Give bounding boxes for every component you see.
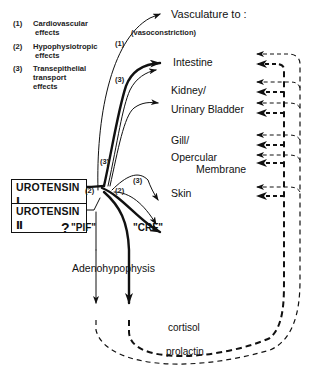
cortisol-label: cortisol (168, 322, 200, 334)
legend-text-line2: effects (35, 51, 59, 60)
target-gill: Gill/ (171, 134, 189, 146)
intestine-arrow-thick (104, 63, 160, 186)
target-intestine: Intestine (173, 56, 213, 68)
legend-number: (3) (13, 64, 22, 73)
target-skin: Skin (171, 187, 191, 199)
feedback-arrows-bladder (257, 103, 300, 113)
pif-question-mark: ? (61, 220, 70, 236)
feedback-arrows-kidney (257, 82, 300, 92)
legend-text-line1: Cardiovascular (33, 19, 88, 28)
crf-arrow (104, 192, 129, 303)
kidney-arrow (110, 103, 158, 186)
target-membrane: Membrane (196, 163, 246, 175)
pif-label: "PIF" (71, 222, 96, 233)
tag-skin-3: (3) (133, 176, 142, 185)
vasoconstriction-label: (vasoconstriction) (131, 28, 196, 37)
legend-number: (2) (13, 42, 22, 51)
tag-pif-2: (2) (85, 186, 94, 195)
legend-text-line2: transport effects (33, 73, 66, 91)
prolactin-label: prolactin (166, 346, 204, 358)
tag-vasculature-1: (1) (115, 39, 124, 48)
urotensin-pathways (86, 14, 160, 303)
feedback-arrows-opercular (257, 155, 300, 163)
legend-number: (1) (13, 19, 22, 28)
target-urinary-bladder: Urinary Bladder (171, 103, 244, 115)
feedback-arrows-gill (257, 135, 300, 145)
feedback-arrows-skin (257, 187, 300, 196)
tag-urotensin-2-3: (3) (100, 157, 109, 166)
urotensin-2-connector (86, 198, 100, 210)
legend-text-line1: Hypophysiotropic (33, 42, 98, 51)
vasculature-label: Vasculature to : (171, 8, 247, 20)
legend-text-line2: effects (35, 28, 59, 37)
adenohypophysis-label: Adenohypophysis (72, 262, 155, 274)
crf-label: "CRF" (133, 222, 163, 233)
feedback-arrows-intestine (257, 54, 288, 64)
tag-crf-2: (2) (115, 186, 124, 195)
opercular-arrow (114, 192, 156, 224)
target-opercular: Opercular (171, 151, 217, 163)
target-kidney: Kidney/ (171, 84, 206, 96)
legend-text-line1: Transepithelial (33, 64, 86, 73)
tag-transport-3-upper: (3) (115, 75, 124, 84)
